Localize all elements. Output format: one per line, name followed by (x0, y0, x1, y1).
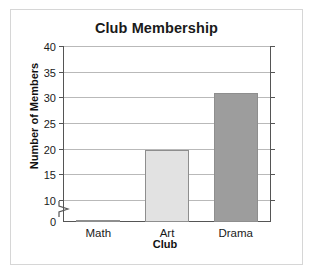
y-axis-tick-label: 30 (44, 92, 56, 104)
y-axis-break-icon (57, 201, 73, 218)
y-axis-tick-label: 15 (44, 169, 56, 181)
y-axis-tick-left (59, 46, 64, 47)
y-axis-tick-left (59, 97, 64, 98)
bar-drama (214, 93, 258, 222)
y-axis-tick-left (59, 200, 64, 201)
y-axis-tick-label: 40 (44, 41, 56, 53)
y-axis-tick-label: 0 (50, 216, 56, 228)
x-axis-title: Club (56, 238, 274, 250)
y-axis-tick-label: 35 (44, 67, 56, 79)
y-axis-title: Number of Members (28, 51, 40, 181)
plot-area: 010152025303540MathArtDrama (63, 46, 271, 222)
y-axis-tick-label: 25 (44, 118, 56, 130)
y-axis-tick-right (270, 97, 275, 98)
y-axis-tick-right (270, 123, 275, 124)
chart-figure-frame: Club Membership Number of Members 010152… (10, 9, 303, 265)
y-axis-tick-right (270, 72, 275, 73)
y-axis-tick-left (59, 174, 64, 175)
y-axis-tick-label: 20 (44, 144, 56, 156)
y-axis-tick-left (59, 72, 64, 73)
y-axis-tick-left (59, 149, 64, 150)
gridline (64, 46, 270, 47)
y-axis-tick-right (270, 174, 275, 175)
gridline (64, 72, 270, 73)
chart-title: Club Membership (11, 20, 302, 36)
y-axis-tick-right (270, 200, 275, 201)
bar-math (76, 220, 120, 222)
bar-art (145, 150, 189, 222)
y-axis-tick-left (59, 123, 64, 124)
y-axis-tick-right (270, 46, 275, 47)
y-axis-tick-label: 10 (44, 195, 56, 207)
y-axis-tick-right (270, 149, 275, 150)
